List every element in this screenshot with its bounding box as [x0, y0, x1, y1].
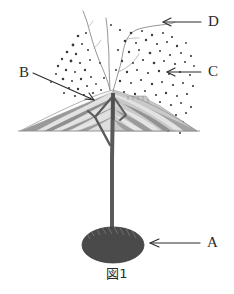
figure-volcano-cross-section: A B C D 図1	[0, 0, 234, 294]
volcano-cone-strata	[20, 87, 197, 131]
magma-chamber	[82, 227, 144, 263]
label-d: D	[208, 14, 219, 29]
figure-caption: 図1	[0, 263, 234, 282]
label-a: A	[207, 235, 218, 250]
label-b: B	[19, 65, 29, 80]
arrow-a	[150, 239, 200, 247]
label-c: C	[208, 64, 218, 79]
arrow-c	[167, 68, 201, 76]
arrow-b	[33, 73, 94, 100]
arrow-d	[163, 18, 201, 26]
annotation-arrows	[33, 18, 201, 247]
volcano-diagram-svg	[0, 0, 234, 294]
